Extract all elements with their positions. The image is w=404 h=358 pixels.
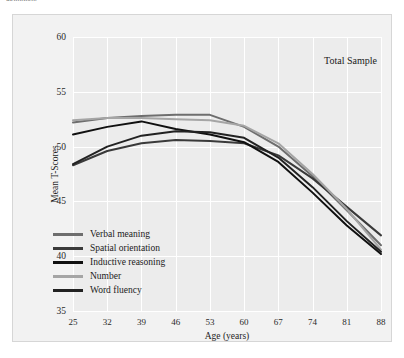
legend-item-label: Spatial orientation bbox=[90, 243, 160, 253]
y-axis-label: Mean T-Scores bbox=[50, 145, 60, 202]
x-axis-tick-label: 67 bbox=[274, 317, 283, 327]
x-axis-tick-label: 53 bbox=[205, 317, 214, 327]
chart-frame: 354045505560 25323946536067748188 Mean T… bbox=[12, 14, 392, 342]
legend-item-label: Number bbox=[90, 271, 121, 281]
x-axis-tick-label: 60 bbox=[240, 317, 249, 327]
x-axis-tick-label: 25 bbox=[69, 317, 78, 327]
x-axis-tick-label: 81 bbox=[342, 317, 351, 327]
legend-item: Spatial orientation bbox=[53, 241, 165, 255]
gridline-vertical bbox=[381, 37, 382, 311]
x-axis-tick-label: 88 bbox=[377, 317, 386, 327]
gridline-horizontal bbox=[73, 311, 381, 312]
x-axis-tick-label: 32 bbox=[103, 317, 112, 327]
legend-item: Word fluency bbox=[53, 283, 165, 297]
x-axis-label: Age (years) bbox=[205, 331, 250, 341]
x-axis-tick-label: 39 bbox=[137, 317, 146, 327]
chart-annotation: Total Sample bbox=[324, 55, 377, 66]
y-axis-tick-label: 55 bbox=[57, 87, 67, 97]
x-axis-tick-label: 46 bbox=[171, 317, 180, 327]
y-axis-tick-label: 60 bbox=[57, 32, 67, 42]
legend-item: Verbal meaning bbox=[53, 227, 165, 241]
legend-item-label: Verbal meaning bbox=[90, 229, 150, 239]
figure-container: definition. 354045505560 253239465360677… bbox=[0, 0, 404, 358]
legend-item: Inductive reasoning bbox=[53, 255, 165, 269]
legend-swatch-icon bbox=[53, 247, 83, 250]
legend-item-label: Word fluency bbox=[90, 285, 142, 295]
legend-swatch-icon bbox=[53, 233, 83, 236]
legend-swatch-icon bbox=[53, 289, 83, 292]
chart-legend: Verbal meaningSpatial orientationInducti… bbox=[53, 227, 165, 297]
cutoff-caption-text: definition. bbox=[6, 0, 37, 2]
legend-item-label: Inductive reasoning bbox=[90, 257, 165, 267]
legend-swatch-icon bbox=[53, 275, 83, 278]
legend-swatch-icon bbox=[53, 261, 83, 264]
y-axis-tick-label: 35 bbox=[57, 306, 67, 316]
x-axis-tick-label: 74 bbox=[308, 317, 317, 327]
legend-item: Number bbox=[53, 269, 165, 283]
